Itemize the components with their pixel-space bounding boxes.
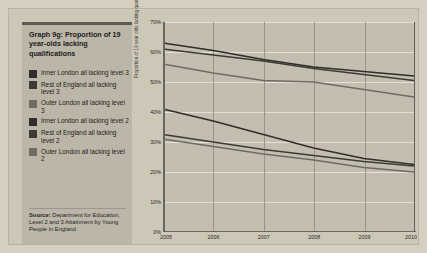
legend-item-label: Inner London all lacking level 3 <box>41 69 129 77</box>
x-axis-tick-label: 2010 <box>405 234 417 240</box>
x-axis-line <box>163 231 416 233</box>
legend-top-rule <box>22 22 132 25</box>
y-axis-tick-label: 60% <box>150 49 161 55</box>
list-item[interactable]: Outer London all lacking level 3 <box>29 99 129 114</box>
legend-item-label: Outer London all lacking level 3 <box>41 99 129 114</box>
series-line <box>163 49 414 81</box>
list-item[interactable]: Rest of England all lacking level 3 <box>29 81 129 96</box>
series-line <box>163 64 414 97</box>
y-axis-tick-label: 50% <box>150 79 161 85</box>
figure-frame: Graph 9g: Proportion of 19 year-olds lac… <box>0 0 427 253</box>
y-axis-tick-label: 40% <box>150 109 161 115</box>
list-item[interactable]: Outer London all lacking level 2 <box>29 148 129 163</box>
source-note: Source: Department for Education, Level … <box>29 212 128 233</box>
page-title: Graph 9g: Proportion of 19 year-olds lac… <box>29 30 127 58</box>
legend-swatch-icon <box>29 100 37 108</box>
y-axis-tick-label: 70% <box>150 19 161 25</box>
x-axis-tick-label: 2008 <box>308 234 320 240</box>
x-axis-tick-label: 2009 <box>359 234 371 240</box>
legend-swatch-icon <box>29 118 37 126</box>
y-axis-tick-labels: 0% 10% 20% 30% 40% 50% 60% 70% <box>139 22 161 244</box>
series-line <box>163 135 414 167</box>
legend-item-label: Rest of England all lacking level 2 <box>41 129 129 144</box>
list-item[interactable]: Inner London all lacking level 2 <box>29 117 129 126</box>
y-axis-tick-label: 30% <box>150 139 161 145</box>
series-line <box>163 109 414 165</box>
x-axis-tick-label: 2005 <box>160 234 172 240</box>
divider <box>29 208 126 209</box>
legend-list: Inner London all lacking level 3 Rest of… <box>29 69 129 166</box>
legend-swatch-icon <box>29 81 37 89</box>
list-item[interactable]: Inner London all lacking level 3 <box>29 69 129 78</box>
legend-swatch-icon <box>29 148 37 156</box>
x-axis-tick-label: 2007 <box>258 234 270 240</box>
series-line <box>163 139 414 172</box>
x-axis-tick-labels: 2005 2006 2007 2008 2009 2010 <box>163 234 415 246</box>
chart-plot-area: Proportion of 19 year olds lacking quali… <box>135 22 422 244</box>
legend-swatch-icon <box>29 130 37 138</box>
y-axis-tick-label: 10% <box>150 199 161 205</box>
legend-swatch-icon <box>29 70 37 78</box>
plot-panel <box>163 22 415 232</box>
legend-item-label: Outer London all lacking level 2 <box>41 148 129 163</box>
legend-item-label: Inner London all lacking level 2 <box>41 117 129 125</box>
y-axis-tick-label: 20% <box>150 169 161 175</box>
legend-panel: Graph 9g: Proportion of 19 year-olds lac… <box>22 22 132 244</box>
list-item[interactable]: Rest of England all lacking level 2 <box>29 129 129 144</box>
series-lines-group <box>163 22 414 232</box>
legend-item-label: Rest of England all lacking level 3 <box>41 81 129 96</box>
x-axis-tick-label: 2006 <box>207 234 219 240</box>
figure-inner-panel: Graph 9g: Proportion of 19 year-olds lac… <box>8 8 419 245</box>
y-axis-line <box>163 22 165 232</box>
source-prefix: Source: <box>29 212 51 218</box>
